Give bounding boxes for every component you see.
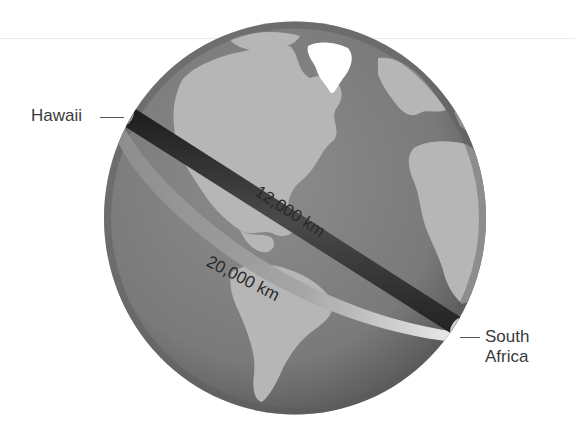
hawaii-label: Hawaii	[31, 106, 82, 126]
hawaii-leader-line	[100, 117, 124, 118]
south-africa-label-line2: Africa	[485, 347, 529, 367]
south-africa-label-line1: South	[485, 327, 529, 347]
south-africa-label: South Africa	[485, 327, 529, 367]
south-africa-leader-line	[460, 337, 480, 338]
